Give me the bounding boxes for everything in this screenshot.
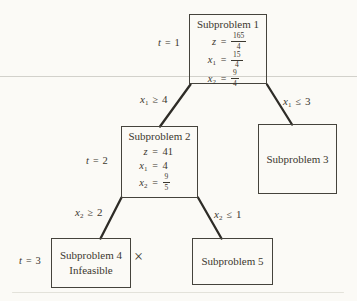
equals-sign: = xyxy=(93,155,99,166)
equals-sign: = xyxy=(216,54,231,65)
geq-sign: ≥ xyxy=(152,94,158,105)
scan-artifact-line-bottom xyxy=(12,292,344,293)
variable-t: t xyxy=(158,37,161,48)
branch-label-x1-le-3: x1 ≤ 3 xyxy=(283,95,310,107)
node-equations: z = 1654 x1 = 154 x2 = 94 xyxy=(190,32,266,88)
scan-artifact-line-top xyxy=(0,76,357,77)
fraction-value: 94 xyxy=(231,69,239,88)
equation-x1: x1 = 4 xyxy=(132,159,188,171)
equals-sign: = xyxy=(148,146,163,157)
branch-label-x2-ge-2: x2 ≥ 2 xyxy=(75,206,102,218)
branch-label-x1-ge-4: x1 ≥ 4 xyxy=(140,93,167,105)
equation-z: z = 41 xyxy=(132,145,188,157)
iteration-label-t1: t = 1 xyxy=(158,37,180,48)
node-title: Subproblem 4 xyxy=(60,249,122,262)
bound-value: 4 xyxy=(162,93,168,105)
variable-x1: x1 xyxy=(140,93,148,105)
node-title: Subproblem 3 xyxy=(266,153,328,166)
equals-sign: = xyxy=(165,37,171,48)
equation-x2: x2 = 95 xyxy=(132,173,188,192)
node-subproblem-2: Subproblem 2 z = 41 x1 = 4 x2 = 95 xyxy=(121,126,198,198)
equals-sign: = xyxy=(216,36,231,47)
branch-label-x2-le-1: x2 ≤ 1 xyxy=(214,208,241,220)
value: 4 xyxy=(163,160,188,171)
geq-sign: ≥ xyxy=(87,207,93,218)
node-title: Subproblem 5 xyxy=(201,255,263,268)
fraction-value: 154 xyxy=(231,51,243,70)
node-title: Subproblem 1 xyxy=(190,18,266,31)
leq-sign: ≤ xyxy=(226,209,232,220)
iteration-label-t2: t = 2 xyxy=(86,155,108,166)
variable-t: t xyxy=(86,155,89,166)
branch-and-bound-tree-figure: Subproblem 1 z = 1654 x1 = 154 x2 = 94 S… xyxy=(0,0,357,301)
edge-sub2-sub4 xyxy=(101,198,122,239)
iteration-number: 1 xyxy=(175,37,180,48)
variable-x1: x1 xyxy=(283,95,291,107)
leq-sign: ≤ xyxy=(295,96,301,107)
value: 41 xyxy=(163,146,188,157)
equals-sign: = xyxy=(148,160,163,171)
fraction-value: 95 xyxy=(163,173,171,192)
fathom-x-mark: × xyxy=(134,249,143,265)
iteration-label-t3: t = 3 xyxy=(19,255,41,266)
equation-x2: x2 = 94 xyxy=(200,69,256,88)
equals-sign: = xyxy=(216,73,231,84)
fraction-value: 1654 xyxy=(231,32,246,51)
bound-value: 1 xyxy=(236,208,242,220)
equals-sign: = xyxy=(26,255,32,266)
node-subproblem-5: Subproblem 5 xyxy=(192,238,273,285)
edge-sub1-sub2 xyxy=(160,85,191,127)
node-subproblem-3: Subproblem 3 xyxy=(258,124,337,194)
iteration-number: 3 xyxy=(36,255,41,266)
variable-t: t xyxy=(19,255,22,266)
equals-sign: = xyxy=(148,177,163,188)
variable-x2: x2 xyxy=(214,208,222,220)
bound-value: 2 xyxy=(97,206,103,218)
node-subproblem-1: Subproblem 1 z = 1654 x1 = 154 x2 = 94 xyxy=(189,14,267,84)
variable-x2: x2 xyxy=(75,206,83,218)
equation-z: z = 1654 xyxy=(200,32,256,51)
node-title: Subproblem 2 xyxy=(122,130,197,143)
bound-value: 3 xyxy=(305,95,311,107)
iteration-number: 2 xyxy=(103,155,108,166)
equation-x1: x1 = 154 xyxy=(200,51,256,70)
node-status-infeasible: Infeasible xyxy=(69,264,112,277)
node-equations: z = 41 x1 = 4 x2 = 95 xyxy=(122,145,197,192)
node-subproblem-4: Subproblem 4 Infeasible xyxy=(51,238,131,288)
